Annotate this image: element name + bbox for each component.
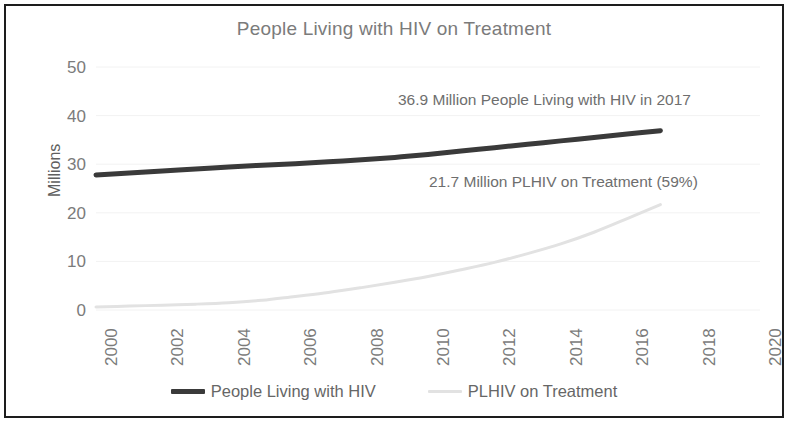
x-axis-tick-2010: 2010 bbox=[435, 328, 452, 366]
x-axis: 2000200220042006200820102012201420162018… bbox=[0, 318, 788, 374]
y-axis-tick-0: 0 bbox=[40, 302, 86, 319]
y-axis: Millions 50403020100 bbox=[40, 55, 86, 322]
chart-legend: People Living with HIV PLHIV on Treatmen… bbox=[0, 382, 788, 401]
legend-label-plhiv-on-treatment: PLHIV on Treatment bbox=[468, 382, 618, 401]
x-axis-tick-2002: 2002 bbox=[169, 328, 186, 366]
y-axis-tick-10: 10 bbox=[40, 253, 86, 270]
legend-item-people-living-with-hiv[interactable]: People Living with HIV bbox=[171, 382, 376, 401]
x-axis-tick-2006: 2006 bbox=[302, 328, 319, 366]
y-axis-tick-20: 20 bbox=[40, 205, 86, 222]
legend-item-plhiv-on-treatment[interactable]: PLHIV on Treatment bbox=[428, 382, 618, 401]
y-axis-tick-40: 40 bbox=[40, 108, 86, 125]
annotation-on-treatment: 21.7 Million PLHIV on Treatment (59%) bbox=[429, 173, 698, 191]
series-lines bbox=[96, 131, 660, 307]
x-axis-tick-2018: 2018 bbox=[701, 328, 718, 366]
y-axis-tick-50: 50 bbox=[40, 59, 86, 76]
x-axis-tick-2008: 2008 bbox=[369, 328, 386, 366]
x-axis-tick-2012: 2012 bbox=[501, 328, 518, 366]
legend-line-icon-dark bbox=[171, 389, 205, 394]
series-line-people-living-with-hiv bbox=[96, 131, 660, 175]
series-line-plhiv-on-treatment bbox=[96, 205, 660, 308]
annotation-total-plhiv: 36.9 Million People Living with HIV in 2… bbox=[398, 91, 691, 109]
x-axis-tick-2014: 2014 bbox=[568, 328, 585, 366]
x-axis-tick-2020: 2020 bbox=[767, 328, 784, 366]
legend-line-icon-light bbox=[428, 390, 462, 393]
x-axis-tick-2000: 2000 bbox=[103, 328, 120, 366]
legend-label-people-living-with-hiv: People Living with HIV bbox=[211, 382, 376, 401]
x-axis-tick-2016: 2016 bbox=[634, 328, 651, 366]
chart-screenshot: People Living with HIV on Treatment Mill… bbox=[0, 0, 788, 422]
x-axis-tick-2004: 2004 bbox=[236, 328, 253, 366]
y-axis-tick-30: 30 bbox=[40, 156, 86, 173]
chart-title: People Living with HIV on Treatment bbox=[0, 18, 788, 40]
